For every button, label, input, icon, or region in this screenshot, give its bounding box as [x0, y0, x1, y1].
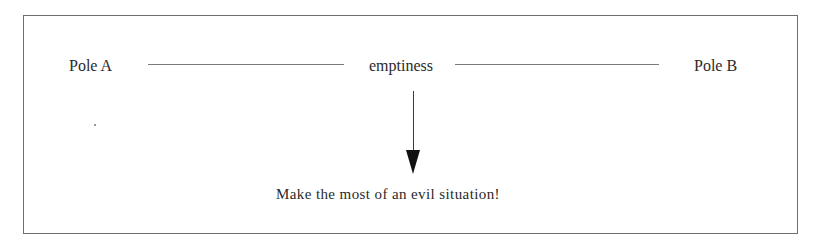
- arrow-stem: [413, 91, 414, 151]
- conclusion-caption: Make the most of an evil situation!: [276, 185, 500, 203]
- left-connector-line: [148, 64, 344, 65]
- emptiness-label: emptiness: [369, 57, 433, 75]
- right-connector-line: [455, 64, 659, 65]
- pole-b-label: Pole B: [694, 57, 737, 75]
- stray-dot: [94, 124, 96, 126]
- arrow-down-icon: [406, 150, 420, 174]
- pole-a-label: Pole A: [69, 57, 112, 75]
